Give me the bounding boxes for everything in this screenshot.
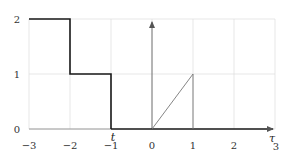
y-tick-label-1: 1 bbox=[14, 69, 20, 80]
y-tick-label-2: 2 bbox=[14, 14, 20, 25]
x-tick-label-0: 0 bbox=[149, 140, 155, 151]
ramp-line bbox=[152, 74, 193, 129]
y-tick-label-0: 0 bbox=[14, 124, 20, 135]
t-marker-label: t bbox=[111, 131, 116, 144]
x-tick-label-2: 2 bbox=[231, 140, 237, 151]
x-tick-label-neg3: −3 bbox=[22, 140, 37, 151]
tau-axis-label: τ bbox=[269, 132, 276, 145]
chart: 2 1 0 −3 −2 −1 0 1 2 3 t τ bbox=[0, 0, 290, 157]
x-tick-label-1: 1 bbox=[190, 140, 196, 151]
x-tick-label-neg2: −2 bbox=[63, 140, 78, 151]
